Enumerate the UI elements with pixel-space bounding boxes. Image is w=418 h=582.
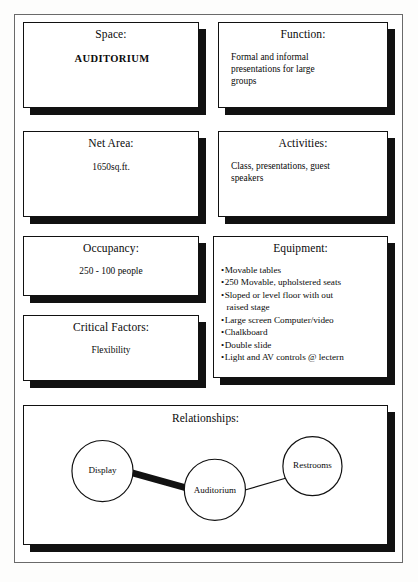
list-item: Double slide: [221, 339, 387, 352]
node-restrooms-label: Restrooms: [293, 460, 332, 470]
list-item: Large screen Computer/video: [221, 314, 387, 327]
list-item: Movable tables: [221, 264, 387, 277]
card-relationships: Relationships: Display Auditorium Restro…: [23, 405, 388, 545]
list-item: Sloped or level floor with out: [221, 289, 387, 302]
net-area-card-title: Net Area:: [24, 132, 198, 150]
equipment-list: Movable tables 250 Movable, upholstered …: [214, 264, 387, 364]
relationship-diagram: Display Auditorium Restrooms: [24, 406, 387, 544]
occupancy-card-value: 250 - 100 people: [24, 255, 198, 277]
space-program-sheet: Space: AUDITORIUM Function: Formal and i…: [0, 0, 418, 582]
link-display-auditorium: [129, 472, 189, 489]
occupancy-card-title: Occupancy:: [24, 237, 198, 255]
activities-card-value: Class, presentations, guest speakers: [219, 150, 369, 185]
critical-factors-card-value: Flexibility: [24, 334, 198, 356]
equipment-card-title: Equipment:: [214, 237, 387, 255]
function-card-value: Formal and informal presentations for la…: [219, 41, 351, 88]
card-function: Function: Formal and informal presentati…: [218, 22, 388, 108]
card-occupancy: Occupancy: 250 - 100 people: [23, 236, 199, 296]
link-auditorium-restrooms: [242, 477, 289, 491]
card-space: Space: AUDITORIUM: [23, 22, 199, 108]
space-card-value: AUDITORIUM: [24, 41, 198, 66]
node-display-label: Display: [88, 465, 117, 475]
function-card-title: Function:: [219, 23, 387, 41]
list-item: Light and AV controls @ lectern: [221, 351, 387, 364]
activities-card-title: Activities:: [219, 132, 387, 150]
card-net-area: Net Area: 1650sq.ft.: [23, 131, 199, 217]
list-item-continuation: raised stage: [221, 301, 387, 314]
node-auditorium-label: Auditorium: [194, 485, 236, 495]
card-activities: Activities: Class, presentations, guest …: [218, 131, 388, 217]
list-item: 250 Movable, upholstered seats: [221, 276, 387, 289]
list-item: Chalkboard: [221, 326, 387, 339]
card-critical-factors: Critical Factors: Flexibility: [23, 315, 199, 381]
space-card-title: Space:: [24, 23, 198, 41]
net-area-card-value: 1650sq.ft.: [24, 150, 198, 173]
critical-factors-card-title: Critical Factors:: [24, 316, 198, 334]
card-equipment: Equipment: Movable tables 250 Movable, u…: [213, 236, 388, 378]
